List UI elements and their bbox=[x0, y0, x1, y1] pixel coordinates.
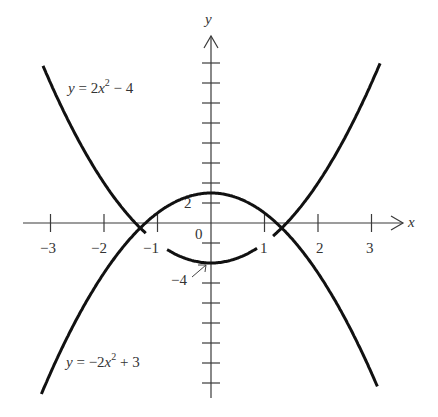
x-tick-label: 1 bbox=[260, 240, 268, 256]
y-tick-label-neg4: −4 bbox=[171, 272, 187, 288]
lower-equation-label: y = −2x2 + 3 bbox=[64, 351, 140, 370]
curve-upward-parabola bbox=[273, 63, 380, 236]
x-tick-label: 3 bbox=[366, 240, 374, 256]
y-axis: y bbox=[203, 11, 218, 398]
x-tick-label: −2 bbox=[91, 240, 107, 256]
x-tick-label: −1 bbox=[143, 240, 159, 256]
upper-equation-label: y = 2x2 − 4 bbox=[66, 77, 134, 96]
origin-label: 0 bbox=[195, 226, 203, 242]
curve-upward-parabola bbox=[167, 248, 257, 263]
y-axis-label: y bbox=[203, 11, 212, 27]
x-axis-label: x bbox=[407, 214, 415, 230]
x-tick-label: 2 bbox=[316, 240, 324, 256]
x-tick-label: −3 bbox=[40, 240, 56, 256]
annotation-arrow-icon bbox=[192, 265, 206, 277]
x-axis: x bbox=[23, 214, 415, 230]
chart-canvas: x y −3 −2 −1 1 2 3 0 2 −4 y = 2x2 − 4 y … bbox=[0, 0, 438, 417]
